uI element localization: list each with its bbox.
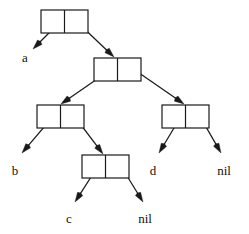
atom-label-a: a [22,50,28,65]
root-cons-cell [41,10,88,33]
atom-label-d: d [150,163,157,178]
arrow-head-icon [22,144,31,153]
arrow-head-icon [61,96,71,104]
arrow-head-icon [75,192,83,202]
atom-label-c: c [66,211,72,226]
fourth-cons-cell [162,105,209,128]
cons-cell-diagram: abcdnilnil [0,0,249,234]
fifth-cons-cell [82,155,129,178]
atom-label-nil-bottom: nil [138,211,152,226]
arrow-head-icon [214,143,221,153]
arrow-head-icon [95,145,103,154]
atom-label-nil-right: nil [217,163,231,178]
arrow-head-icon [105,48,114,57]
third-cons-cell [37,105,84,128]
cons-cell-diagram-canvas: abcdnilnil [0,0,249,234]
second-cons-cell [94,58,141,81]
cells-layer [37,10,209,178]
arrow-head-icon [135,192,143,202]
atom-label-b: b [12,163,19,178]
arrow-head-icon [174,96,184,104]
arrow-head-icon [159,143,167,153]
arrow-head-icon [33,40,42,49]
